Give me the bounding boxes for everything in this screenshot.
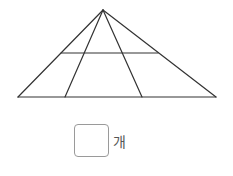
answer-input-box[interactable] <box>74 124 109 157</box>
triangle-figure <box>0 0 233 110</box>
unit-label: 개 <box>113 134 126 150</box>
